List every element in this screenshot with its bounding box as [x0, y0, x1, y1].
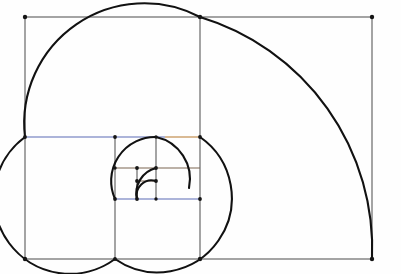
vertex-inner-v2-bottom [154, 197, 157, 200]
vertex-brown1-left [113, 166, 116, 169]
vertex-outer-top-right [370, 15, 374, 19]
vertex-blue-lower-right [198, 197, 202, 201]
golden-spiral-figure [0, 0, 401, 274]
vertex-left-blue-start [23, 135, 27, 139]
vertex-inner-v1-top [113, 135, 117, 139]
vertex-inner-v1-bottom [113, 257, 117, 261]
vertex-brown2-left [135, 179, 139, 183]
vertex-outer-bottom-left [23, 257, 27, 261]
vertex-inner-v2-top [154, 135, 157, 138]
vertex-outer-bottom-mid [198, 257, 202, 261]
vertex-brown2-right [154, 179, 158, 183]
golden-spiral-canvas [0, 0, 401, 274]
vertex-inner-v3-bottom [135, 197, 139, 201]
vertex-outer-bottom-right [370, 257, 374, 261]
vertex-brown1-mid [135, 166, 139, 170]
vertex-outer-top-left [23, 15, 27, 19]
vertex-mid-blue-end [198, 135, 202, 139]
vertex-blue-lower-left [113, 197, 117, 201]
vertex-outer-top-mid [198, 15, 202, 19]
vertex-brown1-right [154, 166, 158, 170]
